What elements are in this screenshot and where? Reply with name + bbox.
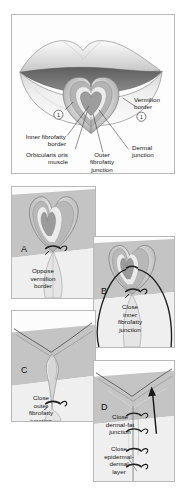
label-outer-fibrofatty-junction-line3: junction — [82, 166, 122, 173]
panel-d-caption-secondary: Close epidermal- dermal layer — [95, 445, 143, 475]
panel-b-caption-line1: Close — [108, 303, 152, 311]
panel-c-caption-line4: junction — [18, 417, 64, 422]
panel-b-caption-line2: inner — [108, 311, 152, 319]
panel-d-caption-line1: Close — [96, 413, 144, 421]
panel-d-caption2-line2: epidermal- — [95, 453, 143, 461]
panel-d-close-dermal-fat-junction: D Close dermal-fat junction Close epider… — [93, 360, 175, 482]
panel-b-caption-line3: fibrofatty — [108, 318, 152, 326]
label-vermilion-border-line1: Vermilion — [134, 96, 175, 103]
panel-b-caption-line4: junction — [108, 326, 152, 334]
label-outer-fibrofatty-junction-line2: fibrofatty — [82, 158, 122, 165]
panel-a-caption: Oppose vermilion border — [19, 267, 67, 290]
panel-b-caption: Close inner fibrofatty junction — [108, 303, 152, 333]
panel-d-caption2-line1: Close — [95, 445, 143, 453]
panel-c-caption-line1: Close — [18, 394, 64, 402]
label-outer-fibrofatty-junction-line1: Outer — [82, 151, 122, 158]
panel-a-caption-line1: Oppose — [19, 267, 67, 275]
panel-c-letter: C — [21, 365, 28, 375]
panel-d-letter: D — [101, 402, 108, 412]
panel-b-letter: B — [101, 286, 107, 296]
panel-c-close-outer-fibrofatty-junction: C Close outer fibrofatty junction — [11, 310, 96, 422]
label-vermilion-border: Vermilion border — [134, 96, 175, 111]
label-inner-fibrofatty-border: Inner fibrofatty border — [14, 133, 66, 148]
label-orbicularis-oris-muscle-line2: muscle — [12, 158, 68, 165]
label-vermilion-border-line2: border — [134, 103, 175, 110]
panel-d-caption-line3: junction — [96, 428, 144, 436]
label-orbicularis-oris-muscle: Orbicularis oris muscle — [12, 151, 68, 166]
label-outer-fibrofatty-junction: Outer fibrofatty junction — [82, 151, 122, 173]
label-inner-fibrofatty-border-line2: border — [14, 140, 66, 147]
panel-b-close-inner-fibrofatty-junction: B Close inner fibrofatty junction — [93, 236, 175, 348]
panel-a-oppose-vermilion-border: A Oppose vermilion border — [11, 186, 96, 299]
panel-d-caption2-line3: dermal — [95, 460, 143, 468]
panel-c-caption: Close outer fibrofatty junction — [18, 394, 64, 422]
panel-c-caption-line3: fibrofatty — [18, 409, 64, 417]
label-orbicularis-oris-muscle-line1: Orbicularis oris — [12, 151, 68, 158]
panel-c-caption-line2: outer — [18, 402, 64, 410]
surgical-repair-figure: 1 1 Vermilion border Inner fibrofatty bo… — [0, 0, 186, 500]
marker-1-right-label: 1 — [140, 114, 143, 120]
panel-a-caption-line2: vermilion — [19, 275, 67, 283]
lip-anatomy-panel: 1 1 Vermilion border Inner fibrofatty bo… — [11, 14, 175, 174]
panel-a-letter: A — [21, 244, 27, 254]
label-dermal-junction-line2: junction — [132, 151, 174, 158]
panel-d-caption2-line4: layer — [95, 468, 143, 476]
panel-d-caption-primary: Close dermal-fat junction — [96, 413, 144, 436]
marker-1-left-label: 1 — [57, 112, 60, 118]
label-dermal-junction: Dermal junction — [132, 144, 174, 159]
panel-a-caption-line3: border — [19, 282, 67, 290]
panel-d-caption-line2: dermal-fat — [96, 421, 144, 429]
label-inner-fibrofatty-border-line1: Inner fibrofatty — [14, 133, 66, 140]
label-dermal-junction-line1: Dermal — [132, 144, 174, 151]
